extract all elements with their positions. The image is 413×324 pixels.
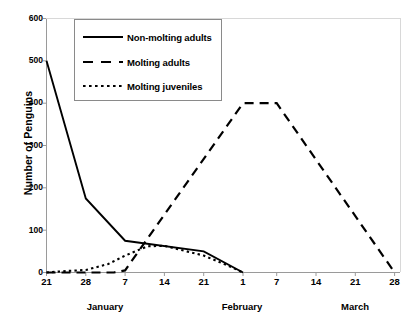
legend-label: Non-molting adults — [127, 32, 212, 43]
month-label-january: January — [45, 301, 165, 312]
y-tick-label: 300 — [3, 141, 43, 150]
x-tick-label: 7 — [110, 276, 140, 287]
series-molting-juveniles — [47, 246, 244, 273]
x-tick-label: 14 — [301, 276, 331, 287]
legend-item-non-molting-adults: Non-molting adults — [75, 27, 223, 47]
y-tick-label: 200 — [3, 183, 43, 192]
legend-swatch-dotted-icon — [81, 80, 125, 92]
x-tick-label: 28 — [380, 276, 410, 287]
x-tick-label: 21 — [340, 276, 370, 287]
y-tick-label: 100 — [3, 226, 43, 235]
x-tick-label: 7 — [262, 276, 292, 287]
legend-item-molting-juveniles: Molting juveniles — [75, 76, 223, 96]
y-tick-label: 400 — [3, 98, 43, 107]
month-label-february: February — [182, 301, 302, 312]
x-tick-label: 21 — [32, 276, 62, 287]
chart-legend: Non-molting adults Molting adults Moltin… — [74, 19, 222, 101]
month-label-march: March — [295, 301, 413, 312]
legend-swatch-dashed-icon — [81, 56, 125, 68]
legend-label: Molting adults — [127, 57, 190, 68]
y-tick-label: 600 — [3, 14, 43, 23]
x-tick-label: 21 — [189, 276, 219, 287]
legend-label: Molting juveniles — [127, 81, 202, 92]
legend-item-molting-adults: Molting adults — [75, 52, 223, 72]
legend-swatch-solid-icon — [81, 31, 125, 43]
y-tick-marks — [43, 19, 46, 273]
y-tick-label: 500 — [3, 56, 43, 65]
penguin-molting-line-chart: Number of Penguins 600 500 400 300 200 1… — [0, 0, 413, 324]
x-tick-label: 1 — [228, 276, 258, 287]
x-tick-label: 28 — [71, 276, 101, 287]
series-molting-adults — [47, 103, 395, 272]
x-tick-label: 14 — [149, 276, 179, 287]
